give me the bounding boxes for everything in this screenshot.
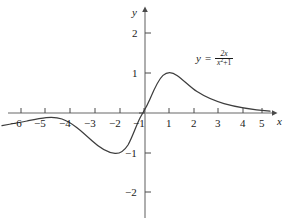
x-tick-label-3: 3	[215, 118, 221, 129]
y-tick-label-1: 1	[132, 68, 138, 79]
x-tick-label-2: 2	[191, 118, 197, 129]
x-tick-label--6: −6	[10, 118, 22, 129]
x-tick-label--3: −3	[84, 118, 96, 129]
x-tick-label--4: −4	[59, 118, 71, 129]
x-tick-label--1: −1	[133, 118, 145, 129]
x-axis-label: x	[277, 116, 282, 127]
x-tick-label--5: −5	[34, 118, 46, 129]
equation-annotation: y = 2x x2+1	[196, 50, 233, 68]
equation-denominator-rest: +1	[223, 58, 231, 67]
x-tick-label--2: −2	[109, 118, 121, 129]
y-tick-label--1: −1	[125, 148, 137, 159]
plot-canvas	[0, 0, 290, 223]
x-tick-label-5: 5	[259, 118, 265, 129]
y-axis-arrowhead	[142, 7, 148, 13]
equation-denominator: x2+1	[215, 58, 233, 67]
y-axis-label: y	[132, 7, 137, 18]
x-tick-label-1: 1	[166, 118, 172, 129]
equation-fraction: 2x x2+1	[215, 50, 233, 68]
x-tick-label-4: 4	[240, 118, 246, 129]
equation-equals-sign: =	[205, 53, 211, 64]
y-tick-label-2: 2	[132, 28, 138, 39]
function-graph-figure: −6 −5 −4 −3 −2 −1 1 2 3 4 5 2 1 −1 −2 y …	[0, 0, 290, 223]
y-tick-label--2: −2	[125, 187, 137, 198]
equation-lhs: y	[196, 53, 201, 64]
